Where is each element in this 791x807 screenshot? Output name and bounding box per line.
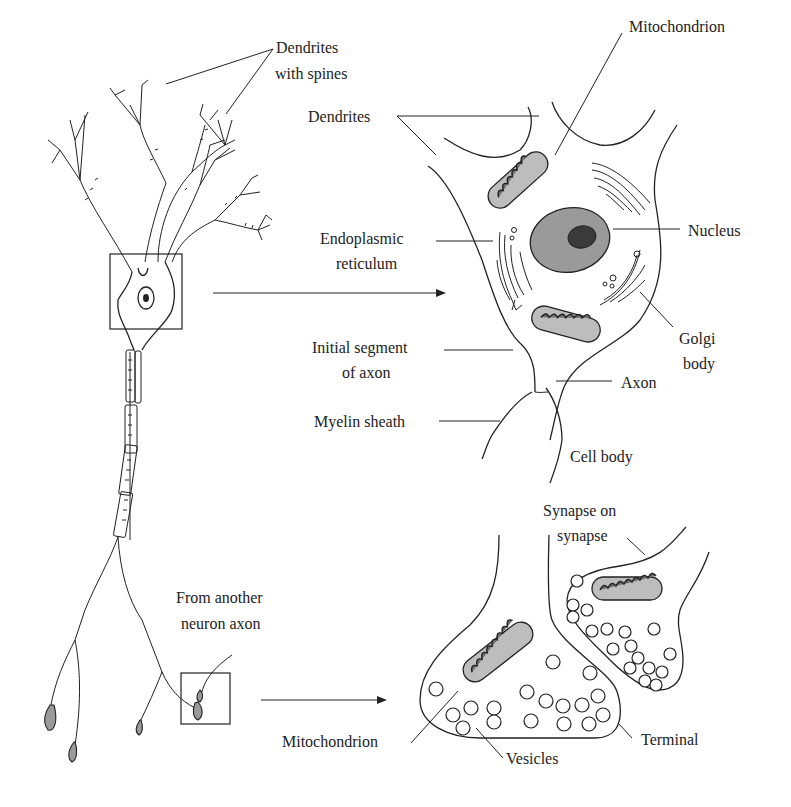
- label-initial-segment: Initial segment: [312, 339, 408, 357]
- vesicles: [429, 655, 610, 735]
- label-dendrites: Dendrites: [308, 108, 370, 125]
- label-mitochondrion-cell: Mitochondrion: [629, 18, 725, 35]
- label-terminal: Terminal: [641, 731, 699, 748]
- label-axon: Axon: [621, 374, 657, 391]
- synapse-zoom-box: [181, 673, 230, 724]
- neuron-diagram: Dendrites with spines From another neuro…: [0, 0, 791, 807]
- label-golgi-body: Golgi: [679, 330, 716, 348]
- neuron-nucleolus: [143, 294, 149, 302]
- golgi-top: [592, 163, 650, 215]
- label-nucleus: Nucleus: [688, 222, 740, 239]
- cell-mitochondrion-2: [529, 303, 603, 344]
- label-initial-segment-2: of axon: [342, 364, 390, 381]
- label-cell-body: Cell body: [570, 448, 633, 466]
- bouton-mitochondrion: [592, 573, 662, 600]
- terminal-mitochondrion: [458, 617, 537, 686]
- endoplasmic-reticulum: [497, 228, 532, 311]
- golgi-body: [600, 250, 645, 305]
- label-golgi-body-2: body: [683, 355, 715, 373]
- label-synapse-on-synapse: Synapse on: [543, 502, 616, 520]
- label-mitochondrion-terminal: Mitochondrion: [282, 733, 378, 750]
- label-endoplasmic-reticulum-2: reticulum: [336, 255, 398, 272]
- label-from-another-neuron-2: neuron axon: [181, 615, 261, 632]
- whole-neuron: Dendrites with spines From another neuro…: [45, 39, 348, 762]
- label-synapse-on-synapse-2: synapse: [557, 527, 608, 545]
- myelinated-axon: [113, 350, 141, 540]
- label-dendrites-with-spines: Dendrites: [276, 39, 338, 56]
- label-endoplasmic-reticulum: Endoplasmic: [320, 230, 404, 248]
- label-vesicles: Vesicles: [506, 750, 558, 767]
- dendrite-tree: [48, 80, 272, 272]
- label-from-another-neuron: From another: [176, 589, 263, 606]
- label-myelin-sheath: Myelin sheath: [314, 413, 405, 431]
- synapse-detail: Synapse on synapse Mitochondrion Vesicle…: [282, 502, 709, 767]
- label-dendrites-with-spines-2: with spines: [275, 65, 347, 83]
- cell-body-detail: Mitochondrion Dendrites Nucleus Endoplas…: [308, 18, 740, 483]
- axon-terminals: [45, 537, 232, 762]
